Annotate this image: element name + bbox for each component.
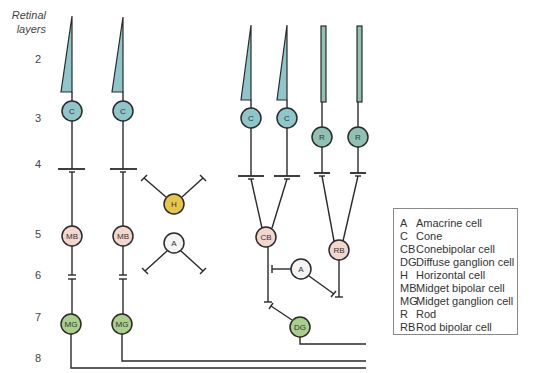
cb-dendrite-right xyxy=(272,179,287,228)
legend-abbr: H xyxy=(400,269,416,282)
cb-dendrite-left xyxy=(251,179,262,228)
midget-pathway-2 xyxy=(110,17,366,361)
horizontal-process-left xyxy=(144,178,166,197)
legend-item: DGDiffuse ganglion cell xyxy=(400,256,517,269)
amacrine-cell-1-group xyxy=(142,251,206,274)
legend-item: CBConebipolar cell xyxy=(400,243,517,256)
legend-name: Conebipolar cell xyxy=(416,243,495,256)
rod-2: R xyxy=(348,127,368,147)
cone-outer-segment-4 xyxy=(277,25,287,100)
mb-label-2: MB xyxy=(117,232,129,241)
cone-1: C xyxy=(62,101,82,121)
amacrine-label-2: A xyxy=(298,265,304,274)
rod-label-1: R xyxy=(319,133,325,142)
rb-dendrite-left xyxy=(322,176,334,241)
rb-label: RB xyxy=(333,246,344,255)
cone-bipolar: CB xyxy=(256,227,276,247)
rod-label-2: R xyxy=(355,133,361,142)
legend-item: MGMidget ganglion cell xyxy=(400,295,517,308)
dg-dendrite xyxy=(271,306,292,320)
legend-abbr: C xyxy=(400,230,416,243)
cone-3: C xyxy=(241,108,261,128)
midget-bipolar-1: MB xyxy=(62,226,82,246)
diffuse-ganglion-group xyxy=(269,303,366,344)
legend-item: RRod xyxy=(400,308,517,321)
legend-abbr: MG xyxy=(400,295,416,308)
legend: AAmacrine cell CCone CBConebipolar cell … xyxy=(393,208,518,335)
cone-pathway xyxy=(238,25,300,302)
cone-label-3: C xyxy=(248,114,254,123)
legend-abbr: RB xyxy=(400,321,416,334)
dg-label: DG xyxy=(294,323,306,332)
mg-axon-1 xyxy=(71,334,366,368)
rod-1: R xyxy=(312,127,332,147)
midget-ganglion-2: MG xyxy=(112,314,132,334)
mg-axon-2 xyxy=(122,334,366,361)
amacrine1-process-left xyxy=(145,251,167,271)
horizontal-label: H xyxy=(171,200,177,209)
legend-name: Midget ganglion cell xyxy=(416,295,513,308)
legend-item: CCone xyxy=(400,230,517,243)
mg-label-1: MG xyxy=(65,320,78,329)
legend-name: Rod bipolar cell xyxy=(416,321,492,334)
legend-item: RBRod bipolar cell xyxy=(400,321,517,334)
amacrine2-to-rb xyxy=(309,276,334,294)
legend-name: Rod xyxy=(416,308,436,321)
amacrine-cell-1: A xyxy=(164,233,184,253)
midget-ganglion-1: MG xyxy=(61,314,81,334)
legend-abbr: R xyxy=(400,308,416,321)
amacrine-cell-2: A xyxy=(291,259,311,279)
legend-abbr: A xyxy=(400,217,416,230)
rod-outer-segment-1 xyxy=(321,26,326,102)
legend-name: Amacrine cell xyxy=(416,217,482,230)
rod-bipolar: RB xyxy=(329,240,349,260)
cone-outer-segment-3 xyxy=(241,25,251,100)
legend-name: Midget bipolar cell xyxy=(416,282,505,295)
amacrine-label-1: A xyxy=(171,239,177,248)
legend-item: MBMidget bipolar cell xyxy=(400,282,517,295)
mg-label-2: MG xyxy=(116,320,129,329)
cone-outer-segment-2 xyxy=(112,17,123,92)
legend-item: AAmacrine cell xyxy=(400,217,517,230)
cone-outer-segment-1 xyxy=(61,16,72,92)
legend-abbr: CB xyxy=(400,243,416,256)
cone-label-1: C xyxy=(69,107,75,116)
legend-name: Cone xyxy=(416,230,442,243)
retina-circuit-diagram: Retinal layers 2 3 4 5 6 7 8 xyxy=(0,0,558,373)
cb-label: CB xyxy=(260,233,271,242)
legend-item: HHorizontal cell xyxy=(400,269,517,282)
cell-bodies: C C C C R R H xyxy=(61,101,368,337)
horizontal-cell: H xyxy=(164,194,184,214)
amacrine1-process-right xyxy=(181,251,203,271)
legend-abbr: MB xyxy=(400,282,416,295)
mb-label-1: MB xyxy=(66,232,78,241)
rb-dendrite-right xyxy=(343,176,358,241)
dg-axon xyxy=(300,337,366,344)
rod-outer-segment-2 xyxy=(357,26,362,102)
cone-4: C xyxy=(277,108,297,128)
dg-dendrite-tip xyxy=(269,303,273,309)
diffuse-ganglion: DG xyxy=(290,317,310,337)
midget-pathway-1 xyxy=(58,16,366,368)
horizontal-process-right xyxy=(182,178,203,197)
legend-abbr: DG xyxy=(400,256,416,269)
midget-bipolar-2: MB xyxy=(113,226,133,246)
legend-name: Horizontal cell xyxy=(416,269,485,282)
cone-label-2: C xyxy=(120,107,126,116)
legend-name: Diffuse ganglion cell xyxy=(416,256,514,269)
cone-label-4: C xyxy=(284,114,290,123)
cone-2: C xyxy=(113,101,133,121)
